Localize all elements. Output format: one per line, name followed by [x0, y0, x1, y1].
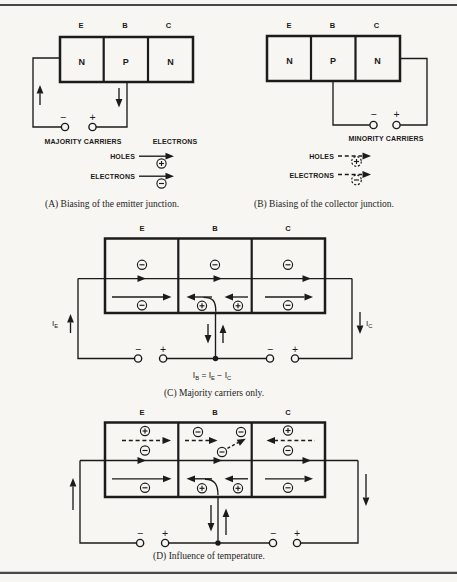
- electron-icon: [137, 260, 146, 269]
- terminal-label-b: B: [122, 21, 128, 30]
- electron-icon: [283, 446, 292, 455]
- open-circle-terminal: [160, 355, 167, 362]
- base-current-equation: IB = IE − IC: [193, 370, 231, 381]
- open-circle-terminal: [269, 539, 276, 546]
- terminal-label-b: B: [212, 408, 218, 417]
- carrier-flow-arrows: [112, 475, 313, 495]
- panel-b-collector-junction: E B C N P N − + MINORITY CARRIERS HOLES …: [254, 21, 427, 210]
- electron-icon: [137, 301, 146, 310]
- collector-current-arrow: [357, 312, 364, 334]
- terminal-label-e: E: [139, 408, 144, 417]
- battery-plus-sign: +: [89, 111, 95, 123]
- electron-flow-line: [78, 275, 352, 282]
- electron-icon: [283, 483, 292, 492]
- region-label-n2: N: [374, 56, 381, 66]
- open-circle-terminal: [135, 355, 142, 362]
- panel-c-majority-carriers: E B C: [52, 224, 372, 399]
- panel-d-influence-of-temperature: E B C: [70, 408, 370, 562]
- legend-left-title: MAJORITY CARRIERS: [44, 138, 121, 145]
- battery-minus-sign: −: [370, 108, 376, 120]
- electron-icon: [140, 483, 149, 492]
- battery-minus-sign: −: [137, 527, 143, 539]
- open-circle-terminal: [61, 123, 68, 130]
- current-up-arrow: [37, 85, 44, 105]
- electron-icon: [193, 427, 202, 436]
- electron-icon: [210, 260, 219, 269]
- electron-icon: [157, 179, 166, 188]
- battery-plus-sign: +: [162, 527, 168, 539]
- terminal-label-c: C: [374, 21, 380, 30]
- region-label-p: P: [330, 56, 336, 66]
- circuit-wiring: [33, 58, 127, 127]
- terminal-label-c: C: [285, 408, 291, 417]
- battery-plus-sign: +: [160, 343, 166, 355]
- caption-a: (A) Biasing of the emitter junction.: [45, 199, 179, 210]
- emitter-current-label: IE: [52, 319, 58, 329]
- circuit-wiring: [78, 279, 352, 359]
- hole-icon: [140, 426, 149, 435]
- junction-dot: [213, 356, 218, 361]
- electron-flow-line: [80, 457, 358, 464]
- electron-icon: [217, 447, 226, 456]
- legend-electrons-label: ELECTRONS: [289, 172, 334, 179]
- terminal-label-b: B: [330, 21, 336, 30]
- legend-title: MINORITY CARRIERS: [348, 135, 423, 142]
- legend-minority-carriers: MINORITY CARRIERS HOLES ELECTRONS: [289, 135, 423, 185]
- terminal-label-e: E: [139, 224, 144, 233]
- region-label-p: P: [123, 57, 129, 67]
- minority-carrier-row: [122, 426, 315, 457]
- terminal-label-c: C: [285, 224, 291, 233]
- hole-icon: [233, 301, 242, 310]
- electron-icon: [140, 446, 149, 455]
- electron-row-top: [137, 260, 292, 269]
- caption-b: (B) Biasing of the collector junction.: [254, 199, 394, 210]
- open-circle-terminal: [291, 355, 298, 362]
- hole-icon: [352, 157, 362, 167]
- hole-icon: [283, 426, 292, 435]
- terminal-label-b: B: [212, 224, 218, 233]
- collector-current-arrow: [363, 474, 370, 506]
- hole-icon: [197, 484, 206, 493]
- figure-page: E B C N P N − + MAJORITY CARRIERS ELECTR…: [0, 0, 457, 582]
- battery-minus-sign: −: [60, 111, 66, 123]
- region-label-n1: N: [286, 56, 293, 66]
- open-circle-terminal: [393, 121, 400, 128]
- open-circle-terminal: [137, 539, 144, 546]
- emitter-current-arrow: [67, 314, 74, 333]
- junction-dot: [215, 540, 220, 545]
- circuit-wiring: [333, 59, 427, 126]
- caption-d: (D) Influence of temperature.: [153, 551, 265, 562]
- battery-plus-sign: +: [292, 343, 298, 355]
- open-circle-terminal: [266, 355, 273, 362]
- battery-minus-sign: −: [270, 527, 276, 539]
- legend-majority-carriers: MAJORITY CARRIERS ELECTRONS HOLES ELECTR…: [44, 138, 197, 188]
- hole-icon: [233, 484, 242, 493]
- legend-holes-label: HOLES: [110, 153, 135, 160]
- hole-icon: [157, 159, 166, 168]
- electron-icon: [283, 260, 292, 269]
- region-label-n2: N: [167, 57, 174, 67]
- open-circle-terminal: [370, 121, 377, 128]
- battery-plus-sign: +: [294, 527, 300, 539]
- electron-icon: [352, 175, 362, 185]
- battery-plus-sign: +: [393, 108, 399, 120]
- battery-minus-sign: −: [135, 343, 141, 355]
- emitter-current-arrow: [70, 478, 77, 510]
- current-down-arrow: [116, 88, 123, 108]
- panel-a-emitter-junction: E B C N P N − + MAJORITY CARRIERS ELECTR…: [33, 21, 197, 210]
- transistor-biasing-figure: E B C N P N − + MAJORITY CARRIERS ELECTR…: [0, 0, 457, 582]
- battery-minus-sign: −: [267, 343, 273, 355]
- legend-holes-label: HOLES: [309, 153, 334, 160]
- open-circle-terminal: [89, 123, 96, 130]
- circuit-wiring: [80, 461, 358, 544]
- carrier-flow-arrows: [112, 294, 313, 312]
- electron-icon: [283, 301, 292, 310]
- terminal-label-e: E: [286, 21, 291, 30]
- electron-icon: [236, 427, 245, 436]
- collector-current-label: IC: [366, 319, 372, 329]
- legend-electrons-label: ELECTRONS: [90, 173, 135, 180]
- open-circle-terminal: [293, 539, 300, 546]
- open-circle-terminal: [162, 539, 169, 546]
- npn-block: N P N: [267, 36, 400, 81]
- region-label-n1: N: [79, 57, 86, 67]
